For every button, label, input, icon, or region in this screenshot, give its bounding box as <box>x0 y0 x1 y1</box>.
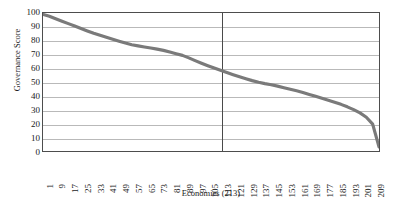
y-axis-tick-label: 40 <box>31 92 40 101</box>
y-axis-tick-label: 80 <box>31 36 40 45</box>
y-axis-tick-label: 60 <box>31 64 40 73</box>
governance-score-chart: Governance Score 0102030405060708090100 … <box>0 0 394 206</box>
y-axis-tick-label: 70 <box>31 50 40 59</box>
y-axis-tick-label: 90 <box>31 22 40 31</box>
y-axis-tick-label: 0 <box>36 148 41 157</box>
series-line <box>43 13 379 151</box>
y-axis-tick-label: 10 <box>31 134 40 143</box>
x-axis-title: Economies (213) <box>42 188 380 198</box>
y-axis-tick-label: 20 <box>31 120 40 129</box>
y-axis-tick-label: 100 <box>27 8 41 17</box>
y-axis-tick-label: 30 <box>31 106 40 115</box>
x-axis-tick-labels: 1917253341495765738189971051131211291371… <box>42 152 380 186</box>
y-axis-tick-labels: 0102030405060708090100 <box>14 0 40 206</box>
plot-area <box>42 12 380 152</box>
y-axis-tick-label: 50 <box>31 78 40 87</box>
